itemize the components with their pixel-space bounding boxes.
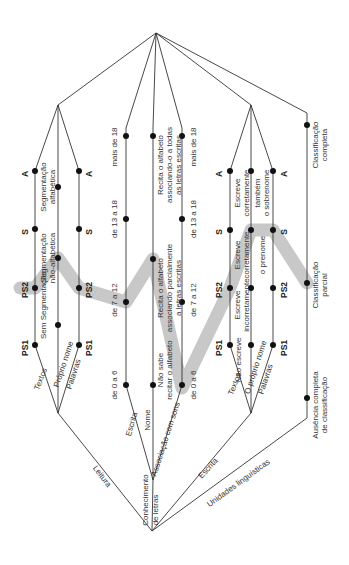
root-branch-labels: Leitura Conhecimento de letras Escrita U… — [91, 456, 272, 526]
svg-text:PS2: PS2 — [279, 282, 289, 298]
top-apex-lines — [58, 33, 307, 128]
svg-text:parcial: parcial — [320, 273, 329, 297]
svg-text:A: A — [20, 171, 30, 177]
svg-text:Escreve: Escreve — [233, 240, 242, 269]
svg-text:PS2: PS2 — [20, 282, 30, 298]
svg-text:Classificação: Classificação — [311, 121, 320, 169]
svg-text:PS1: PS1 — [84, 340, 94, 356]
svg-text:Conhecimento: Conhecimento — [141, 474, 150, 526]
svg-text:Nome: Nome — [143, 409, 152, 431]
unidades-labels: Classificação completa Classificação par… — [311, 121, 329, 439]
svg-text:de classificação: de classificação — [320, 376, 329, 433]
svg-text:A: A — [84, 171, 94, 177]
svg-text:Recita o alfabeto: Recita o alfabeto — [156, 257, 165, 318]
leitura-middle-labels: Sem Segmentação Segmentação não-alfabéti… — [39, 162, 57, 339]
svg-text:A: A — [214, 171, 224, 177]
svg-text:PS2: PS2 — [84, 282, 94, 298]
svg-text:de 13 a 18: de 13 a 18 — [189, 200, 198, 238]
svg-text:de letras: de letras — [151, 495, 160, 526]
svg-text:o prenome: o prenome — [258, 235, 267, 274]
svg-text:de 7 a 12: de 7 a 12 — [189, 283, 198, 317]
svg-text:Recita o alfabeto: Recita o alfabeto — [156, 134, 165, 195]
svg-text:associando parcialmente: associando parcialmente — [165, 243, 174, 332]
svg-text:A: A — [279, 171, 289, 177]
svg-text:S: S — [279, 229, 289, 235]
svg-text:PS1: PS1 — [214, 340, 224, 356]
svg-text:de 0 a 6: de 0 a 6 — [189, 370, 198, 399]
svg-text:Associação com sons: Associação com sons — [149, 401, 181, 477]
svg-text:as letras escritas: as letras escritas — [174, 135, 183, 195]
svg-text:mais de 18: mais de 18 — [189, 127, 198, 167]
svg-text:alfabética: alfabética — [48, 169, 57, 204]
svg-text:Escreve: Escreve — [233, 178, 242, 207]
svg-text:Escreve: Escreve — [233, 290, 242, 319]
diagram-canvas: A S PS2 PS1 A S PS2 PS1 Sem Segmentação … — [0, 0, 349, 565]
svg-text:PS1: PS1 — [279, 340, 289, 356]
svg-text:mais de 18: mais de 18 — [110, 127, 119, 167]
svg-text:de 13 a 18: de 13 a 18 — [110, 200, 119, 238]
svg-text:associando-o a todas: associando-o a todas — [165, 127, 174, 203]
svg-text:a letras escritas: a letras escritas — [174, 260, 183, 316]
escrita-level-labels: A S PS2 PS1 A S PS2 PS1 — [214, 171, 289, 356]
svg-text:o sobrenome: o sobrenome — [262, 169, 271, 216]
svg-text:Segmentação: Segmentação — [39, 233, 48, 283]
svg-text:completa: completa — [320, 128, 329, 161]
svg-text:S: S — [20, 229, 30, 235]
svg-text:não-alfabética: não-alfabética — [48, 232, 57, 283]
svg-text:S: S — [214, 229, 224, 235]
svg-text:Ausência completa: Ausência completa — [311, 371, 320, 439]
svg-text:corretamente: corretamente — [242, 231, 251, 279]
unidades-group — [304, 113, 310, 418]
svg-text:corretamente: corretamente — [242, 169, 251, 217]
svg-text:Não sabe: Não sabe — [156, 352, 165, 387]
svg-text:Segmentação: Segmentação — [39, 162, 48, 212]
svg-text:Textos: Textos — [226, 372, 243, 397]
svg-text:S: S — [84, 229, 94, 235]
svg-text:de 0 a 6: de 0 a 6 — [110, 370, 119, 399]
svg-text:de 7 a 12: de 7 a 12 — [110, 283, 119, 317]
svg-text:Classificação: Classificação — [311, 261, 320, 309]
svg-text:PS1: PS1 — [20, 340, 30, 356]
svg-text:incorretamente: incorretamente — [242, 278, 251, 332]
svg-text:recitar o alfabeto: recitar o alfabeto — [165, 340, 174, 400]
conhecimento-escrita-ranges: mais de 18 de 13 a 18 de 7 a 12 de 0 a 6 — [110, 127, 119, 400]
escrita-nome-labels: o prenome também o sobrenome — [253, 169, 271, 274]
svg-text:PS2: PS2 — [214, 282, 224, 298]
svg-text:Escrita: Escrita — [197, 456, 220, 481]
svg-text:também: também — [253, 178, 262, 207]
svg-text:Leitura: Leitura — [91, 464, 113, 489]
leitura-branch-labels: Textos Próprio nome Palavras — [32, 339, 83, 391]
